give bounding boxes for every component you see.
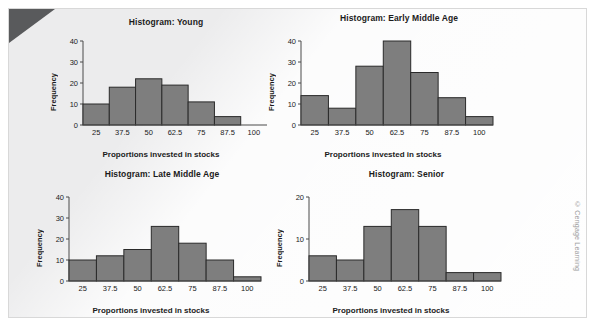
histogram-bar — [124, 250, 151, 282]
x-tick-label: 25 — [311, 128, 319, 137]
y-tick-label: 20 — [288, 79, 296, 88]
y-tick-label: 0 — [300, 277, 304, 286]
histogram-bar — [474, 273, 501, 281]
chart-title-early-middle-age: Histogram: Early Middle Age — [249, 13, 549, 23]
y-tick-label: 40 — [56, 193, 64, 202]
plot-area-early-middle-age: 0102030402537.55062.57587.5100 — [279, 35, 497, 143]
histogram-grid: Histogram: Young Frequency 0102030402537… — [9, 9, 586, 317]
x-axis-label-late-middle-age: Proportions invested in stocks — [47, 306, 255, 315]
chart-senior: Histogram: Senior Frequency 010202537.55… — [259, 169, 554, 318]
y-axis-label-young: Frequency — [49, 57, 58, 127]
histogram-bar — [214, 117, 240, 125]
histogram-bar — [466, 117, 493, 125]
x-tick-label: 87.5 — [220, 128, 235, 137]
y-tick-label: 10 — [56, 256, 64, 265]
plot-svg-late-middle-age: 0102030402537.55062.57587.5100 — [47, 191, 265, 299]
histogram-bar — [179, 243, 206, 281]
x-tick-label: 37.5 — [103, 284, 118, 293]
histogram-bar — [391, 210, 418, 281]
y-tick-label: 40 — [288, 37, 296, 46]
x-tick-label: 50 — [133, 284, 141, 293]
chart-title-senior: Histogram: Senior — [259, 169, 554, 179]
histogram-bar — [309, 256, 336, 281]
histogram-bar — [136, 79, 162, 125]
histogram-bar — [383, 41, 410, 125]
x-axis-label-senior: Proportions invested in stocks — [287, 306, 495, 315]
figure-panel: Histogram: Young Frequency 0102030402537… — [8, 8, 587, 318]
x-tick-label: 50 — [373, 284, 381, 293]
histogram-bar — [206, 260, 233, 281]
y-tick-label: 10 — [70, 100, 78, 109]
x-axis-label-young: Proportions invested in stocks — [61, 150, 261, 159]
y-tick-label: 0 — [60, 277, 64, 286]
chart-early-middle-age: Histogram: Early Middle Age Frequency 01… — [249, 13, 549, 165]
x-tick-label: 25 — [79, 284, 87, 293]
x-tick-label: 87.5 — [213, 284, 228, 293]
x-tick-label: 75 — [420, 128, 428, 137]
x-tick-label: 87.5 — [453, 284, 468, 293]
histogram-bar — [188, 102, 214, 125]
x-tick-label: 62.5 — [390, 128, 405, 137]
plot-area-young: 0102030402537.55062.57587.5100 — [61, 35, 271, 143]
y-tick-label: 40 — [70, 37, 78, 46]
x-tick-label: 100 — [481, 284, 494, 293]
histogram-bar — [234, 277, 261, 281]
x-tick-label: 100 — [473, 128, 486, 137]
histogram-bar — [301, 96, 328, 125]
x-tick-label: 37.5 — [335, 128, 350, 137]
histogram-bar — [411, 73, 438, 126]
x-tick-label: 62.5 — [398, 284, 413, 293]
histogram-bar — [69, 260, 96, 281]
y-tick-label: 20 — [70, 79, 78, 88]
plot-area-senior: 010202537.55062.57587.5100 — [287, 191, 505, 299]
plot-svg-senior: 010202537.55062.57587.5100 — [287, 191, 505, 299]
y-tick-label: 10 — [288, 100, 296, 109]
y-tick-label: 30 — [288, 58, 296, 67]
x-tick-label: 75 — [197, 128, 205, 137]
histogram-bar — [438, 98, 465, 125]
y-axis-label-late-middle-age: Frequency — [35, 213, 44, 283]
y-axis-label-senior: Frequency — [275, 213, 284, 283]
y-tick-label: 0 — [292, 121, 296, 130]
y-tick-label: 30 — [70, 58, 78, 67]
y-axis-label-early-middle-age: Frequency — [267, 57, 276, 127]
y-tick-label: 30 — [56, 214, 64, 223]
x-tick-label: 62.5 — [168, 128, 183, 137]
y-tick-label: 20 — [296, 193, 304, 202]
plot-svg-early-middle-age: 0102030402537.55062.57587.5100 — [279, 35, 497, 143]
x-tick-label: 25 — [92, 128, 100, 137]
plot-area-late-middle-age: 0102030402537.55062.57587.5100 — [47, 191, 265, 299]
histogram-bar — [336, 260, 363, 281]
y-tick-label: 10 — [296, 235, 304, 244]
attribution-text: © Cengage Learning — [570, 201, 584, 311]
histogram-bar — [356, 66, 383, 125]
y-tick-label: 0 — [74, 121, 78, 130]
x-tick-label: 50 — [365, 128, 373, 137]
histogram-bar — [83, 104, 109, 125]
histogram-bar — [328, 108, 355, 125]
histogram-bar — [109, 87, 135, 125]
plot-svg-young: 0102030402537.55062.57587.5100 — [61, 35, 271, 143]
histogram-bar — [96, 256, 123, 281]
x-tick-label: 37.5 — [343, 284, 358, 293]
x-tick-label: 75 — [188, 284, 196, 293]
x-tick-label: 100 — [241, 284, 254, 293]
histogram-bar — [151, 226, 178, 281]
x-tick-label: 37.5 — [115, 128, 130, 137]
x-tick-label: 25 — [319, 284, 327, 293]
x-tick-label: 87.5 — [445, 128, 460, 137]
x-tick-label: 50 — [145, 128, 153, 137]
x-tick-label: 62.5 — [158, 284, 173, 293]
histogram-bar — [364, 226, 391, 281]
histogram-bar — [419, 226, 446, 281]
histogram-bar — [446, 273, 473, 281]
x-tick-label: 75 — [428, 284, 436, 293]
histogram-bar — [162, 85, 188, 125]
y-tick-label: 20 — [56, 235, 64, 244]
x-axis-label-early-middle-age: Proportions invested in stocks — [279, 150, 487, 159]
